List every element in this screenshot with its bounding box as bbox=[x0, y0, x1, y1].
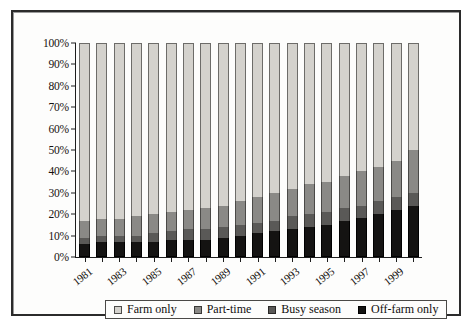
x-axis-tick-mark bbox=[258, 257, 259, 262]
bar-segment bbox=[304, 227, 315, 257]
y-axis-tick-label: 100% bbox=[43, 37, 69, 49]
bar-column: 1995 bbox=[321, 43, 332, 257]
bar-segment bbox=[235, 43, 246, 201]
bar-segment bbox=[373, 167, 384, 201]
bar-column bbox=[269, 43, 280, 257]
bar-column bbox=[235, 43, 246, 257]
bar-segment bbox=[269, 231, 280, 257]
bar-segment bbox=[148, 43, 159, 214]
bar-segment bbox=[408, 150, 419, 193]
legend-item: Off-farm only bbox=[358, 302, 438, 317]
bar-segment bbox=[183, 240, 194, 257]
chart-page: 0%10%20%30%40%50%60%70%80%90%100% 198119… bbox=[0, 0, 472, 326]
bar-segment bbox=[391, 197, 402, 210]
x-axis-tick-label: 1981 bbox=[70, 265, 94, 288]
bar-segment bbox=[114, 43, 125, 218]
bar-segment bbox=[166, 212, 177, 231]
x-axis-tick-mark bbox=[206, 257, 207, 262]
bar-segment bbox=[252, 233, 263, 257]
bar-segment bbox=[356, 206, 367, 219]
x-axis-tick-label: 1995 bbox=[312, 265, 336, 288]
x-axis-tick-mark bbox=[136, 257, 137, 262]
bar-segment bbox=[166, 240, 177, 257]
bar-segment bbox=[183, 43, 194, 210]
x-axis-tick-mark bbox=[102, 257, 103, 262]
bar-segment bbox=[218, 43, 229, 206]
bar-segment bbox=[304, 184, 315, 214]
bar-column bbox=[304, 43, 315, 257]
legend-swatch-icon bbox=[358, 306, 366, 314]
bar-segment bbox=[148, 233, 159, 242]
bar-segment bbox=[166, 231, 177, 240]
x-axis-tick-label: 1989 bbox=[208, 265, 232, 288]
legend-swatch-icon bbox=[194, 306, 202, 314]
bar-segment bbox=[114, 242, 125, 257]
x-axis-tick-label: 1985 bbox=[139, 265, 163, 288]
bar-column bbox=[166, 43, 177, 257]
x-axis-tick-label: 1999 bbox=[382, 265, 406, 288]
bar-column: 1991 bbox=[252, 43, 263, 257]
x-axis-tick-mark bbox=[119, 257, 120, 262]
bar-segment bbox=[373, 201, 384, 214]
bar-column: 1983 bbox=[114, 43, 125, 257]
bar-segment bbox=[148, 242, 159, 257]
bar-segment bbox=[304, 214, 315, 227]
bar-segment bbox=[235, 236, 246, 257]
legend-label: Farm only bbox=[127, 302, 177, 317]
y-axis-tick-label: 50% bbox=[49, 144, 69, 156]
y-axis-tick-label: 0% bbox=[54, 251, 69, 263]
x-axis-tick-label: 1983 bbox=[105, 265, 129, 288]
legend-item: Part-time bbox=[194, 302, 252, 317]
legend-swatch-icon bbox=[268, 306, 276, 314]
bar-segment bbox=[252, 43, 263, 197]
y-axis-tick-label: 80% bbox=[49, 80, 69, 92]
x-axis-tick-mark bbox=[379, 257, 380, 262]
bar-segment bbox=[373, 43, 384, 167]
bar-segment bbox=[321, 43, 332, 182]
x-axis-tick-label: 1997 bbox=[347, 265, 371, 288]
bar-segment bbox=[218, 227, 229, 238]
bar-segment bbox=[218, 206, 229, 227]
bar-segment bbox=[321, 225, 332, 257]
bar-column: 1993 bbox=[287, 43, 298, 257]
x-axis-tick-mark bbox=[154, 257, 155, 262]
chart-legend: Farm onlyPart-timeBusy seasonOff-farm on… bbox=[105, 300, 447, 319]
bar-segment bbox=[200, 208, 211, 229]
legend-item: Busy season bbox=[268, 302, 341, 317]
bar-segment bbox=[96, 43, 107, 218]
bar-segment bbox=[269, 193, 280, 221]
bar-segment bbox=[79, 244, 90, 257]
bar-segment bbox=[79, 221, 90, 238]
x-axis-tick-mark bbox=[310, 257, 311, 262]
bar-column: 1987 bbox=[183, 43, 194, 257]
bar-column bbox=[131, 43, 142, 257]
x-axis-tick-mark bbox=[362, 257, 363, 262]
plot-area: 0%10%20%30%40%50%60%70%80%90%100% 198119… bbox=[75, 43, 422, 258]
y-axis-tick-label: 20% bbox=[49, 208, 69, 220]
x-axis-tick-label: 1991 bbox=[243, 265, 267, 288]
bar-segment bbox=[408, 206, 419, 257]
bar-column bbox=[373, 43, 384, 257]
legend-label: Part-time bbox=[207, 302, 252, 317]
bar-segment bbox=[391, 210, 402, 257]
bar-column: 1985 bbox=[148, 43, 159, 257]
bar-column: 1981 bbox=[79, 43, 90, 257]
bar-segment bbox=[200, 229, 211, 240]
bar-column bbox=[339, 43, 350, 257]
bar-segment bbox=[183, 210, 194, 229]
y-axis-tick-label: 90% bbox=[49, 58, 69, 70]
bar-segment bbox=[339, 176, 350, 208]
bar-segment bbox=[131, 242, 142, 257]
x-axis-tick-mark bbox=[344, 257, 345, 262]
bar-segment bbox=[114, 219, 125, 236]
bar-segment bbox=[408, 43, 419, 150]
y-axis-tick-label: 30% bbox=[49, 187, 69, 199]
x-axis-tick-mark bbox=[223, 257, 224, 262]
bar-segment bbox=[408, 193, 419, 206]
x-axis-tick-mark bbox=[188, 257, 189, 262]
bar-segment bbox=[96, 219, 107, 236]
bar-segment bbox=[148, 214, 159, 233]
bar-segment bbox=[235, 201, 246, 225]
legend-label: Busy season bbox=[281, 302, 341, 317]
bar-segment bbox=[339, 221, 350, 257]
